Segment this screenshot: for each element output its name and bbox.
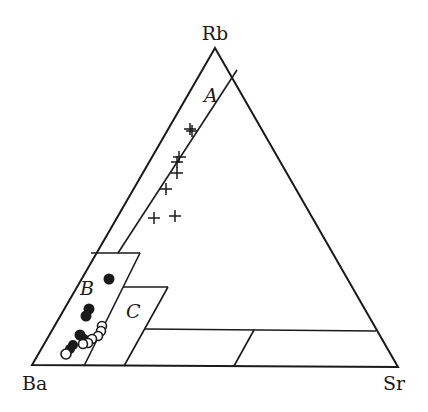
filled-circle-marker	[104, 274, 115, 285]
open-circle-markers	[61, 322, 107, 360]
plus-marker	[186, 125, 198, 137]
vertex-label-rb: Rb	[202, 22, 228, 44]
plus-marker	[184, 123, 196, 135]
field-c-right-boundary	[124, 287, 168, 366]
plus-markers	[148, 123, 198, 224]
plus-marker	[148, 212, 160, 224]
plus-marker	[169, 210, 181, 222]
vertex-label-sr: Sr	[383, 372, 406, 394]
field-label-a: A	[202, 84, 218, 106]
field-label-c: C	[126, 300, 141, 322]
vertex-label-ba: Ba	[22, 372, 47, 394]
open-circle-marker	[79, 340, 88, 349]
filled-circle-marker	[81, 311, 92, 322]
ternary-diagram: Rb Ba Sr A B C	[0, 0, 428, 412]
open-circle-marker	[61, 349, 71, 359]
plus-marker	[171, 156, 183, 168]
ternary-plot: Rb Ba Sr A B C	[0, 0, 428, 412]
lower-slant-boundary	[234, 330, 254, 366]
field-label-b: B	[79, 277, 94, 299]
lower-horizontal-boundary	[145, 329, 376, 331]
